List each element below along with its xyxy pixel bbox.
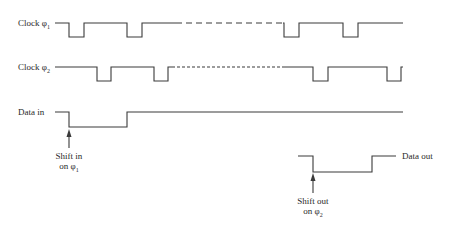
shift-out-annotation: Shift out on φ2 <box>288 196 338 220</box>
shift-in-arrowhead <box>67 129 72 137</box>
data-in-label: Data in <box>18 107 44 117</box>
data-out-label: Data out <box>402 151 433 161</box>
data-in-waveform <box>55 112 403 127</box>
clock2-label: Clock φ2 <box>18 62 50 76</box>
clock1-label: Clock φ1 <box>18 18 50 32</box>
timing-diagram <box>0 0 458 228</box>
clock2-waveform-right <box>285 67 403 81</box>
clock1-waveform-right <box>283 23 403 37</box>
data-out-waveform <box>298 156 396 172</box>
clock1-waveform <box>55 23 182 37</box>
clock2-waveform <box>55 67 172 81</box>
shift-in-annotation: Shift in on φ1 <box>44 151 94 175</box>
shift-out-arrowhead <box>311 173 316 181</box>
